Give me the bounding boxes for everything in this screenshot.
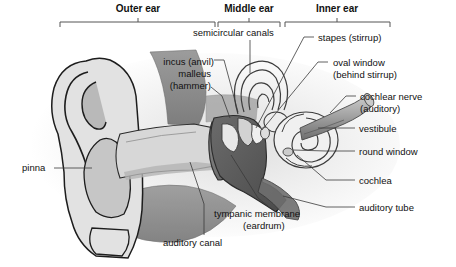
label-cochlear-nerve-sub: (auditory) — [360, 103, 400, 114]
region-label-outer-ear: Outer ear — [88, 3, 188, 14]
label-semicircular-canals: semicircular canals — [193, 27, 274, 38]
pinna-lobe — [90, 228, 129, 256]
label-tympanic-membrane: tympanic membrane — [214, 208, 300, 219]
label-stapes: stapes (stirrup) — [318, 32, 381, 43]
bracket-inner-ear — [285, 18, 390, 27]
label-oval-window-sub: (behind stirrup) — [333, 69, 397, 80]
label-vestibule: vestibule — [359, 123, 397, 134]
label-round-window: round window — [359, 146, 418, 157]
region-brackets — [60, 18, 390, 27]
label-malleus: malleus — [135, 68, 211, 79]
bracket-outer-ear — [60, 18, 215, 27]
oval-window-shape — [261, 127, 270, 139]
bracket-middle-ear — [218, 18, 280, 27]
region-label-inner-ear: Inner ear — [297, 3, 377, 14]
label-malleus-hammer: (hammer) — [135, 80, 211, 91]
label-incus: incus (anvil) — [135, 56, 214, 67]
label-auditory-tube: auditory tube — [359, 202, 414, 213]
ear-anatomy-diagram: Outer ear Middle ear Inner ear semicircu… — [0, 0, 456, 267]
label-eardrum: (eardrum) — [243, 220, 285, 231]
label-cochlea: cochlea — [359, 175, 392, 186]
label-auditory-canal: auditory canal — [163, 237, 222, 248]
label-oval-window: oval window — [333, 57, 385, 68]
label-pinna: pinna — [22, 162, 45, 173]
region-label-middle-ear: Middle ear — [204, 3, 294, 14]
label-cochlear-nerve: cochlear nerve — [360, 91, 422, 102]
round-window-shape — [283, 148, 293, 156]
